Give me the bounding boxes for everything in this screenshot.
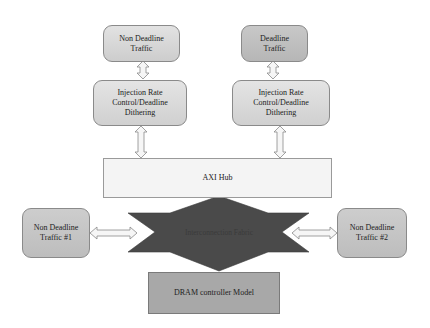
double-arrow-icon [267,61,279,79]
double-arrow-icon [274,126,286,158]
double-arrow-icon [90,227,137,239]
axi-hub-node: AXI Hub [103,158,332,198]
node-label: Non Deadline Traffic #1 [26,223,86,243]
double-arrow-icon [135,126,147,158]
deadline-traffic-node: Deadline Traffic [241,25,308,62]
node-label: Non Deadline Traffic [112,34,172,54]
node-label: Deadline Traffic [255,34,295,54]
node-label: Injection Rate Control/Deadline Ditherin… [242,88,320,118]
dram-controller-node: DRAM controller Model [148,272,280,314]
non-deadline-traffic-1-node: Non Deadline Traffic #1 [22,208,90,258]
double-arrow-icon [292,227,337,239]
node-label: Non Deadline Traffic #2 [342,223,402,243]
non-deadline-traffic-2-node: Non Deadline Traffic #2 [337,208,407,258]
double-arrow-icon [137,61,149,79]
injection-rate-control-right-node: Injection Rate Control/Deadline Ditherin… [232,80,330,126]
node-label: AXI Hub [203,173,233,183]
non-deadline-traffic-node: Non Deadline Traffic [103,25,180,62]
interconnection-fabric-label: Interconnection Fabric [149,228,289,237]
node-label: Injection Rate Control/Deadline Ditherin… [101,88,179,118]
injection-rate-control-left-node: Injection Rate Control/Deadline Ditherin… [93,80,187,126]
node-label: DRAM controller Model [174,288,254,298]
